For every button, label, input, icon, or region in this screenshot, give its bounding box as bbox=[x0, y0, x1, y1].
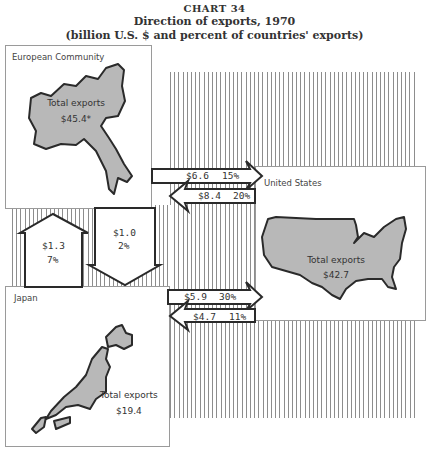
flow-us-to-japan-value: $4.7 bbox=[193, 311, 216, 322]
flow-japan-to-us-value: $5.9 bbox=[184, 291, 207, 302]
flow-us-to-ec-percent: 20% bbox=[233, 190, 250, 201]
flow-ec-to-us-percent: 15% bbox=[222, 170, 239, 181]
flow-ec-to-japan-percent: 2% bbox=[118, 240, 129, 251]
flow-japan-to-ec-value: $1.3 bbox=[42, 240, 65, 251]
flow-ec-to-japan-value: $1.0 bbox=[113, 227, 136, 238]
flow-ec-to-us-value: $6.6 bbox=[186, 170, 209, 181]
flow-us-to-ec-value: $8.4 bbox=[198, 190, 221, 201]
arrow-ec-to-us bbox=[0, 0, 429, 451]
flow-us-to-japan-percent: 11% bbox=[229, 311, 246, 322]
flow-japan-to-ec-percent: 7% bbox=[47, 254, 58, 265]
flow-japan-to-us-percent: 30% bbox=[219, 291, 236, 302]
